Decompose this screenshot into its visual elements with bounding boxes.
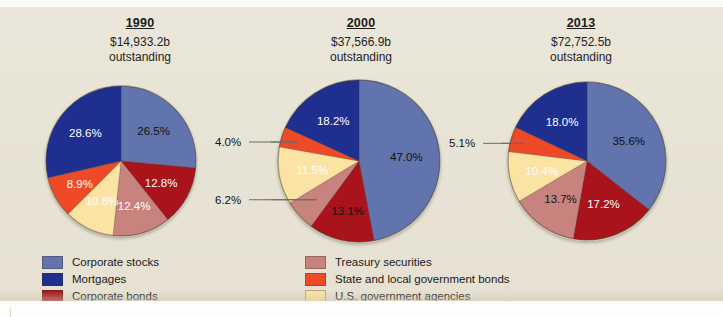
legend-column-left: Corporate stocksMortgagesCorporate bonds: [42, 255, 159, 306]
legend-swatch-icon: [42, 256, 63, 269]
pie-label-u-s-government-agencies: 10.8%: [86, 195, 119, 207]
legend-item[interactable]: Corporate stocks: [42, 255, 159, 270]
chart-column-2000: 2000 $37,566.9b outstanding: [241, 15, 481, 65]
pie-label-corporate-stocks: 26.5%: [137, 125, 170, 137]
pie-label-state-and-local-government-bonds: 8.9%: [67, 178, 93, 190]
legend-item[interactable]: Mortgages: [42, 272, 159, 287]
pie-label-corporate-bonds: 13.1%: [331, 205, 364, 217]
legend-item-label: State and local government bonds: [335, 273, 510, 286]
chart-amount-2000: $37,566.9b: [241, 34, 481, 50]
chart-legend: Corporate stocksMortgagesCorporate bonds…: [0, 255, 723, 305]
chart-amount-1990: $14,933.2b: [20, 34, 260, 50]
chart-year-2000: 2000: [241, 15, 481, 31]
pie-graphic: [507, 81, 667, 241]
pie-graphic: [45, 85, 197, 237]
legend-swatch-icon: [305, 273, 326, 286]
chart-sub-1990: outstanding: [20, 50, 260, 65]
legend-item-label: Mortgages: [72, 273, 126, 286]
figure-root: 1990 $14,933.2b outstanding 2000 $37,566…: [0, 0, 723, 317]
pie-label-callout-state-and-local-government-bonds: 5.1%: [449, 137, 475, 149]
pie-chart-1990: 26.5%28.6%12.8%12.4%8.9%10.8%: [45, 85, 197, 237]
pie-label-corporate-stocks: 47.0%: [390, 151, 423, 163]
legend-item[interactable]: Treasury securities: [305, 255, 510, 270]
chart-column-1990: 1990 $14,933.2b outstanding: [20, 15, 260, 65]
chart-year-1990: 1990: [20, 15, 260, 31]
pie-label-corporate-bonds: 17.2%: [587, 198, 620, 210]
pie-label-u-s-government-agencies: 10.4%: [525, 165, 558, 177]
legend-item-label: Corporate stocks: [72, 256, 159, 269]
pie-label-corporate-bonds: 12.8%: [145, 177, 178, 189]
pie-label-treasury-securities: 13.7%: [544, 193, 577, 205]
pie-label-mortgages: 18.2%: [317, 115, 350, 127]
pie-label-treasury-securities: 12.4%: [118, 200, 151, 212]
legend-swatch-icon: [42, 273, 63, 286]
pie-label-corporate-stocks: 35.6%: [612, 135, 645, 147]
chart-amount-2013: $72,752.5b: [461, 34, 701, 50]
legend-column-right: Treasury securitiesState and local gover…: [305, 255, 510, 306]
pie-label-callout-treasury-securities: 6.2%: [215, 194, 241, 206]
chart-panel: 1990 $14,933.2b outstanding 2000 $37,566…: [0, 7, 723, 301]
legend-swatch-icon: [305, 256, 326, 269]
pie-label-u-s-government-agencies: 11.5%: [296, 164, 328, 176]
pie-chart-2000: 47.0%18.2%13.1%6.2%4.0%11.5%: [277, 79, 441, 243]
chart-column-2013: 2013 $72,752.5b outstanding: [461, 15, 701, 65]
page-bottom-edge: [0, 301, 723, 317]
pie-label-mortgages: 18.0%: [546, 116, 579, 128]
pie-label-mortgages: 28.6%: [69, 127, 102, 139]
legend-item[interactable]: State and local government bonds: [305, 272, 510, 287]
chart-sub-2013: outstanding: [461, 50, 701, 65]
pie-label-callout-state-and-local-government-bonds: 4.0%: [215, 136, 241, 148]
legend-item-label: Treasury securities: [335, 256, 432, 269]
pie-chart-2013: 35.6%18.0%17.2%13.7%5.1%10.4%: [507, 81, 667, 241]
chart-sub-2000: outstanding: [241, 50, 481, 65]
chart-year-2013: 2013: [461, 15, 701, 31]
page-edge-tick: [10, 308, 11, 317]
